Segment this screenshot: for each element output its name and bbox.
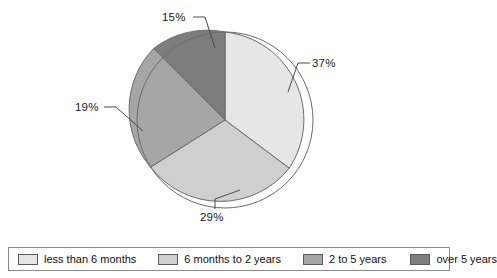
legend-item-label: 6 months to 2 years [184,253,281,265]
chart-legend: less than 6 months 6 months to 2 years 2… [8,247,450,271]
legend-swatch-icon [410,254,430,265]
slice-label-less-than-6-months: 37% [312,57,336,69]
legend-item-2-to-5-years[interactable]: 2 to 5 years [303,248,386,270]
legend-item-over-5-years[interactable]: over 5 years [410,248,497,270]
slice-label-6-months-to-2-years: 29% [200,211,224,223]
legend-item-6-months-to-2-years[interactable]: 6 months to 2 years [158,248,281,270]
slice-label-over-5-years: 15% [162,11,186,23]
slice-label-2-to-5-years: 19% [75,101,99,113]
legend-swatch-icon [303,254,323,265]
legend-item-label: less than 6 months [44,253,136,265]
legend-swatch-icon [158,254,178,265]
legend-item-label: 2 to 5 years [329,253,386,265]
legend-swatch-icon [18,254,38,265]
legend-item-less-than-6-months[interactable]: less than 6 months [18,248,136,270]
legend-item-label: over 5 years [436,253,497,265]
